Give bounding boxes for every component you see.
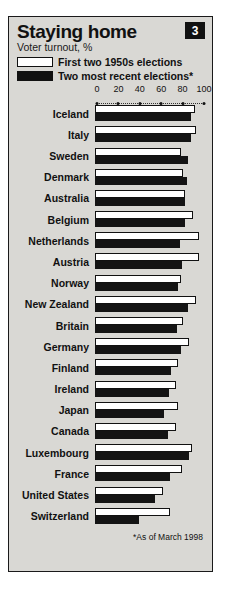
bar-row-label: Luxembourg [9, 448, 95, 459]
bar-row: Norway [9, 273, 204, 294]
x-axis-tick-mark [96, 102, 99, 105]
x-axis-tick-mark [138, 102, 141, 105]
bar-row-label: Canada [9, 426, 95, 437]
bar-recent [95, 389, 169, 397]
bar-row: Sweden [9, 146, 204, 167]
legend-label-recent: Two most recent elections* [58, 70, 193, 82]
bar-row: Netherlands [9, 231, 204, 252]
bar-row-label: Britain [9, 321, 95, 332]
bar-recent [95, 325, 177, 333]
bar-row: Belgium [9, 209, 204, 230]
legend-item-first-1950s: First two 1950s elections [17, 56, 204, 69]
bar-first-1950s [95, 275, 181, 283]
chart-title: Staying home [17, 22, 204, 41]
bar-first-1950s [95, 105, 195, 113]
bar-row: Canada [9, 421, 204, 442]
bar-first-1950s [95, 381, 176, 389]
bar-row-label: Japan [9, 405, 95, 416]
bar-first-1950s [95, 148, 181, 156]
chart-footnote: *As of March 1998 [9, 527, 212, 542]
bar-group [95, 381, 204, 399]
bar-recent [95, 473, 170, 481]
bar-group [95, 253, 204, 271]
bar-group [95, 232, 204, 250]
chart-header: 3 Staying home Voter turnout, % First tw… [9, 17, 212, 83]
bar-group [95, 169, 204, 187]
bar-row-label: Germany [9, 342, 95, 353]
bar-row-label: Iceland [9, 109, 95, 120]
bar-group [95, 487, 204, 505]
bar-recent [95, 431, 168, 439]
bar-row: Iceland [9, 104, 204, 125]
bar-group [95, 148, 204, 166]
x-axis-tick-label: 100 [196, 84, 211, 94]
bar-recent [95, 261, 182, 269]
bar-first-1950s [95, 465, 182, 473]
legend-item-recent: Two most recent elections* [17, 70, 204, 83]
x-axis-tick-labels: 020406080100 [97, 84, 204, 95]
bar-row-label: Austria [9, 257, 95, 268]
bar-row: Britain [9, 315, 204, 336]
bar-row: France [9, 464, 204, 485]
legend-swatch-black-icon [17, 71, 53, 81]
bar-group [95, 338, 204, 356]
bar-row-label: Netherlands [9, 236, 95, 247]
bar-recent [95, 219, 185, 227]
bar-recent [95, 346, 181, 354]
x-axis-tick-mark [117, 102, 120, 105]
bar-recent [95, 134, 191, 142]
bar-group [95, 508, 204, 526]
chart-subtitle: Voter turnout, % [17, 42, 204, 54]
bar-row: Switzerland [9, 506, 204, 527]
x-axis-tick-mark [203, 102, 206, 105]
chart-number-badge: 3 [185, 22, 205, 39]
bar-row: Denmark [9, 167, 204, 188]
bar-row-label: New Zealand [9, 299, 95, 310]
chart-legend: First two 1950s elections Two most recen… [17, 56, 204, 83]
x-axis-line [97, 96, 204, 104]
bar-row: United States [9, 485, 204, 506]
legend-label-first-1950s: First two 1950s elections [58, 56, 182, 68]
x-axis: 020406080100 [97, 84, 204, 104]
bar-first-1950s [95, 232, 199, 240]
bar-group [95, 402, 204, 420]
bar-row-label: Finland [9, 363, 95, 374]
x-axis-tick-label: 60 [156, 84, 166, 94]
x-axis-tick-label: 80 [178, 84, 188, 94]
bar-row-label: France [9, 469, 95, 480]
bar-first-1950s [95, 211, 193, 219]
bar-row: New Zealand [9, 294, 204, 315]
bar-first-1950s [95, 338, 189, 346]
bar-group [95, 359, 204, 377]
bar-first-1950s [95, 169, 183, 177]
bar-recent [95, 283, 178, 291]
bar-row: Australia [9, 188, 204, 209]
bar-row: Ireland [9, 379, 204, 400]
bar-first-1950s [95, 317, 183, 325]
bar-row: Japan [9, 400, 204, 421]
chart-panel: 3 Staying home Voter turnout, % First tw… [8, 16, 213, 572]
bar-first-1950s [95, 444, 192, 452]
bar-group [95, 444, 204, 462]
bar-row-label: Denmark [9, 172, 95, 183]
bar-row-label: Norway [9, 278, 95, 289]
bar-group [95, 211, 204, 229]
bar-recent [95, 516, 139, 524]
bar-group [95, 317, 204, 335]
bar-recent [95, 240, 180, 248]
x-axis-tick-label: 0 [94, 84, 99, 94]
bar-recent [95, 410, 164, 418]
bar-first-1950s [95, 296, 196, 304]
bar-recent [95, 495, 155, 503]
bar-row: Austria [9, 252, 204, 273]
bar-row-label: Switzerland [9, 511, 95, 522]
bar-first-1950s [95, 508, 170, 516]
bar-row: Italy [9, 125, 204, 146]
bar-row-label: Sweden [9, 151, 95, 162]
bar-first-1950s [95, 423, 176, 431]
bar-group [95, 126, 204, 144]
bar-row-label: Australia [9, 193, 95, 204]
bar-recent [95, 177, 187, 185]
bar-recent [95, 198, 185, 206]
x-axis-tick-label: 20 [113, 84, 123, 94]
